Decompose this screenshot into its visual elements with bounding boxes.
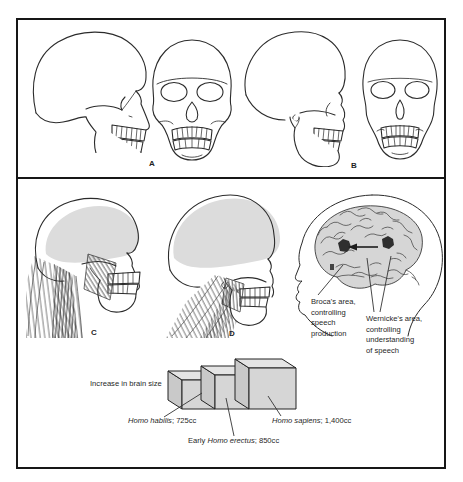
brain-size-caption: Increase in brain size: [90, 379, 162, 390]
skull-b-side-drawing: [240, 27, 348, 167]
skull-a-side-drawing: [28, 27, 152, 153]
skull-a-front-drawing: [146, 35, 238, 161]
anatomy-diagram-canvas: A B: [0, 0, 463, 482]
brain-cavity-shading-d: [173, 198, 280, 267]
broca-annotation: Broca's area, controlling speech product…: [311, 297, 373, 339]
label-homo-erectus: Early Homo erectus; 850cc: [188, 436, 279, 447]
brain-size-blocks-drawing: [150, 355, 310, 440]
block-homo-sapiens: [235, 359, 296, 409]
figure-label-b: B: [351, 161, 357, 170]
label-homo-sapiens: Homo sapiens; 1,400cc: [272, 416, 351, 427]
brain-cavity-shading-c: [46, 206, 140, 263]
figure-label-a: A: [149, 159, 155, 168]
label-homo-habilis: Homo habilis; 725cc: [128, 416, 196, 427]
skull-d-muscles-drawing: [160, 190, 296, 340]
wernicke-annotation: Wernicke's area, controlling understandi…: [366, 314, 438, 356]
skull-c-muscles-drawing: [26, 192, 158, 338]
figure-label-c: C: [91, 328, 97, 337]
panel-divider-line: [16, 177, 446, 179]
brain-stem-tab: [330, 264, 334, 270]
figure-label-d: D: [229, 329, 235, 338]
skull-b-front-drawing: [356, 35, 444, 163]
jaw-muscle-hatch-c: [84, 254, 116, 300]
